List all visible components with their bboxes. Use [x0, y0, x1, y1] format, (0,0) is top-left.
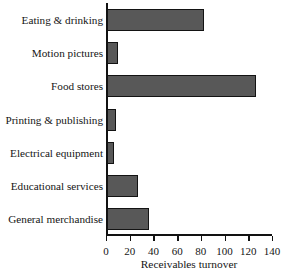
bar [107, 109, 116, 131]
category-label: Printing & publishing [5, 114, 103, 126]
plot-area: 020406080100120140 [106, 3, 272, 236]
x-axis-tick-label: 80 [195, 246, 206, 257]
x-axis-tick [177, 236, 178, 241]
x-axis-tick-label: 20 [124, 246, 135, 257]
category-axis-labels: Eating & drinkingMotion picturesFood sto… [0, 3, 103, 236]
category-label: Educational services [11, 180, 103, 192]
x-axis-tick [201, 236, 202, 241]
x-axis-tick [248, 236, 249, 241]
bar-chart: Eating & drinkingMotion picturesFood sto… [0, 0, 286, 276]
bar [107, 175, 138, 197]
x-axis-tick [153, 236, 154, 241]
x-axis-tick [225, 236, 226, 241]
x-axis-tick [130, 236, 131, 241]
x-axis-tick-label: 100 [216, 246, 233, 257]
x-axis-tick-label: 140 [264, 246, 281, 257]
x-axis-tick [272, 236, 273, 241]
x-axis-tick-label: 40 [148, 246, 159, 257]
category-label: Food stores [51, 80, 103, 92]
bar [107, 208, 149, 230]
x-axis-tick-label: 120 [240, 246, 257, 257]
bar [107, 75, 256, 97]
bar [107, 42, 118, 64]
category-label: Eating & drinking [22, 14, 103, 26]
bar [107, 9, 204, 31]
category-label: Electrical equipment [10, 147, 103, 159]
category-label: Motion pictures [32, 47, 103, 59]
bar [107, 142, 114, 164]
x-axis-title: Receivables turnover [106, 258, 272, 271]
x-axis-tick [106, 236, 107, 241]
category-label: General merchandise [8, 213, 103, 225]
x-axis-tick-label: 0 [103, 246, 109, 257]
x-axis-tick-label: 60 [172, 246, 183, 257]
